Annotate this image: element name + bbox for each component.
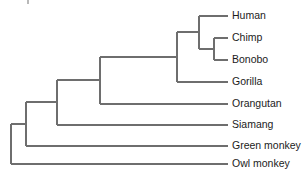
tip-labels: Human Chimp Bonobo Gorilla Orangutan Sia… (232, 9, 302, 169)
tip-label-bonobo: Bonobo (232, 53, 268, 65)
tip-label-green-monkey: Green monkey (232, 139, 302, 151)
cladogram-canvas: Human Chimp Bonobo Gorilla Orangutan Sia… (0, 0, 302, 175)
scan-speck (27, 0, 29, 4)
phylogenetic-tree-figure: Human Chimp Bonobo Gorilla Orangutan Sia… (0, 0, 302, 175)
tip-label-gorilla: Gorilla (232, 75, 263, 87)
tip-label-siamang: Siamang (232, 118, 274, 130)
tip-label-human: Human (232, 9, 266, 21)
tip-label-owl-monkey: Owl monkey (232, 157, 291, 169)
branch-lines (11, 16, 228, 164)
tip-label-chimp: Chimp (232, 31, 263, 43)
tip-label-orangutan: Orangutan (232, 97, 282, 109)
